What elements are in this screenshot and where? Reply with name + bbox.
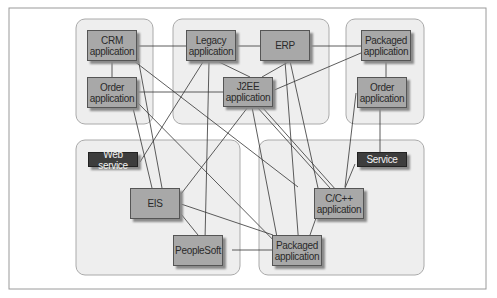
node-label: Packaged application (275, 240, 320, 262)
node-label: Order application (90, 82, 135, 104)
diagram-canvas (0, 0, 497, 298)
node-cpp-application[interactable]: C/C++ application (314, 188, 364, 219)
node-label: Service (366, 154, 397, 165)
node-order-application-left[interactable]: Order application (87, 77, 137, 108)
node-order-application-right[interactable]: Order application (357, 77, 407, 108)
node-service[interactable]: Service (357, 152, 407, 167)
node-label: CRM application (90, 35, 135, 57)
node-label: Order application (360, 82, 405, 104)
node-label: J2EE application (226, 81, 271, 103)
node-j2ee-application[interactable]: J2EE application (223, 77, 273, 107)
node-label: ERP (275, 40, 295, 51)
node-label: Packaged application (364, 35, 409, 57)
node-web-service[interactable]: Web service (88, 152, 138, 167)
node-packaged-application-bottom[interactable]: Packaged application (272, 235, 322, 266)
node-label: PeopleSoft (175, 245, 221, 256)
node-label: Web service (89, 149, 137, 171)
node-erp[interactable]: ERP (260, 30, 310, 61)
node-label: C/C++ application (317, 193, 362, 215)
node-legacy-application[interactable]: Legacy application (186, 30, 236, 61)
node-eis[interactable]: EIS (130, 188, 180, 219)
node-peoplesoft[interactable]: PeopleSoft (173, 235, 223, 266)
node-label: EIS (147, 198, 162, 209)
node-label: Legacy application (189, 35, 234, 57)
node-packaged-application-top[interactable]: Packaged application (361, 30, 411, 61)
node-crm-application[interactable]: CRM application (87, 30, 137, 61)
